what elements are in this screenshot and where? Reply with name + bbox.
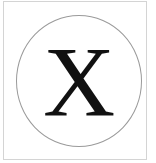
x-letter: X <box>16 15 142 147</box>
